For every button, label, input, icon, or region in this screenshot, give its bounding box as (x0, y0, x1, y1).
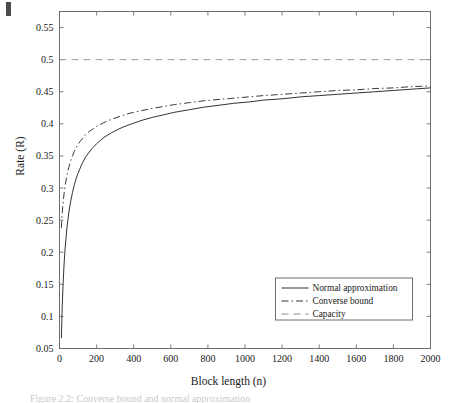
x-tick-label: 800 (200, 353, 215, 364)
x-tick-label: 1200 (272, 353, 292, 364)
legend-label: Capacity (313, 309, 346, 319)
x-tick-label: 600 (163, 353, 178, 364)
x-tick-label: 2000 (421, 353, 441, 364)
legend-label: Converse bound (313, 296, 374, 306)
x-tick-label: 0 (57, 353, 62, 364)
y-tick-label: 0.15 (36, 279, 54, 290)
x-tick-label: 200 (89, 353, 104, 364)
x-tick-label: 1000 (235, 353, 255, 364)
rate-vs-blocklength-chart: 02004006008001000120014001600180020000.0… (0, 0, 457, 403)
figure-container: 02004006008001000120014001600180020000.0… (0, 0, 457, 403)
y-tick-label: 0.45 (36, 86, 54, 97)
x-tick-label: 1400 (309, 353, 329, 364)
y-axis-label-wrapper: Rate (R) (14, 106, 26, 206)
x-tick-label: 400 (126, 353, 141, 364)
y-tick-label: 0.55 (36, 22, 54, 33)
y-axis-label: Rate (R) (14, 136, 26, 175)
y-tick-label: 0.3 (41, 183, 54, 194)
y-tick-label: 0.5 (41, 54, 54, 65)
y-tick-label: 0.35 (36, 150, 54, 161)
x-axis-label: Block length (n) (0, 375, 457, 387)
y-tick-label: 0.4 (41, 118, 54, 129)
legend-label: Normal approximation (313, 283, 398, 293)
y-tick-label: 0.2 (41, 247, 54, 258)
y-tick-label: 0.25 (36, 215, 54, 226)
x-tick-label: 1800 (383, 353, 403, 364)
y-tick-label: 0.05 (36, 343, 54, 354)
figure-caption: Figure 2.2: Converse bound and normal ap… (30, 393, 450, 403)
x-tick-label: 1600 (346, 353, 366, 364)
y-tick-label: 0.1 (41, 311, 54, 322)
